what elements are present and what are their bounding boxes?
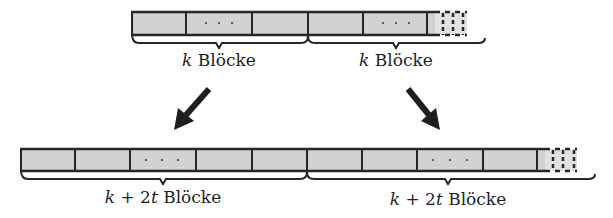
top-left-group-label: k Blöcke bbox=[182, 50, 256, 70]
label-variable: k bbox=[182, 50, 192, 70]
label-variable: k bbox=[390, 189, 400, 209]
label-variable-2: t bbox=[151, 187, 158, 207]
arrow-right-down-icon bbox=[408, 89, 440, 130]
label-variable: k bbox=[105, 187, 115, 207]
label-variable-2: t bbox=[436, 189, 443, 209]
top-right-group-label: k Blöcke bbox=[359, 50, 433, 70]
label-operator: + 2 bbox=[405, 189, 435, 209]
label-operator: + 2 bbox=[120, 187, 150, 207]
block-diagram bbox=[0, 0, 613, 218]
top-brace-right bbox=[308, 36, 485, 48]
label-text: Blöcke bbox=[198, 50, 256, 70]
label-text: Blöcke bbox=[163, 187, 221, 207]
bottom-left-group-label: k + 2t Blöcke bbox=[105, 187, 222, 207]
label-text: Blöcke bbox=[448, 189, 506, 209]
bottom-block-strip bbox=[20, 149, 577, 171]
label-variable: k bbox=[359, 50, 369, 70]
arrow-left-down-icon bbox=[174, 89, 209, 130]
bottom-brace-right bbox=[307, 172, 595, 184]
label-text: Blöcke bbox=[375, 50, 433, 70]
top-block-strip bbox=[131, 12, 467, 35]
bottom-right-group-label: k + 2t Blöcke bbox=[390, 189, 507, 209]
